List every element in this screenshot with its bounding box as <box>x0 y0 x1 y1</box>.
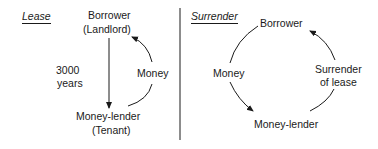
surrender-borrower-label: Borrower <box>260 17 303 29</box>
lease-title: Lease <box>22 10 51 24</box>
surrender-action-line1: Surrender <box>315 63 362 75</box>
lease-lender-label: Money-lender <box>76 110 140 122</box>
lease-money-label: Money <box>137 67 169 79</box>
surrender-curve-lender-to-surrender <box>310 89 334 111</box>
surrender-arrow-to-borrower <box>310 31 335 60</box>
lease-arrow-money-to-borrower <box>132 37 152 62</box>
surrender-curve-money-to-borrower <box>230 26 258 63</box>
lease-duration-unit: years <box>57 77 83 89</box>
lease-curve-lender-to-money <box>128 84 152 106</box>
lease-borrower-label: Borrower <box>88 9 131 21</box>
surrender-title: Surrender <box>191 10 238 24</box>
surrender-action-line2: of lease <box>320 76 357 88</box>
surrender-money-label: Money <box>213 67 245 79</box>
surrender-lender-label: Money-lender <box>254 118 318 130</box>
lease-lender-role: (Tenant) <box>92 124 131 136</box>
lease-borrower-role: (Landlord) <box>83 23 131 35</box>
surrender-arrow-to-lender <box>230 82 253 111</box>
lease-duration-value: 3000 <box>56 64 79 76</box>
